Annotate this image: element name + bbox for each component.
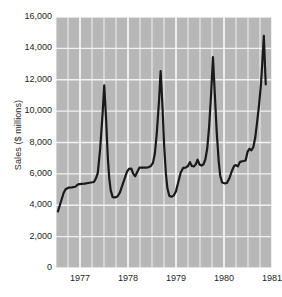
- x-tick-label: 1978: [105, 274, 151, 283]
- series-line-sales: [58, 36, 266, 212]
- y-tick-label: 4,000: [4, 200, 52, 209]
- plot-area: [56, 17, 272, 268]
- sales-line-chart: Sales ($ millions) 02,0004,0006,0008,000…: [0, 0, 282, 297]
- plot-canvas: [56, 17, 272, 268]
- x-tick-label: 1977: [57, 274, 103, 283]
- y-tick-label: 0: [4, 263, 52, 272]
- x-tick-label: 1981: [249, 274, 282, 283]
- x-tick-label: 1980: [201, 274, 247, 283]
- y-tick-label: 10,000: [4, 106, 52, 115]
- y-tick-label: 14,000: [4, 43, 52, 52]
- y-tick-label: 12,000: [4, 75, 52, 84]
- y-tick-label: 8,000: [4, 138, 52, 147]
- y-tick-label: 16,000: [4, 12, 52, 21]
- x-tick-label: 1979: [153, 274, 199, 283]
- y-axis-tick-labels: 02,0004,0006,0008,00010,00012,00014,0001…: [0, 0, 52, 297]
- y-tick-label: 6,000: [4, 169, 52, 178]
- y-tick-label: 2,000: [4, 232, 52, 241]
